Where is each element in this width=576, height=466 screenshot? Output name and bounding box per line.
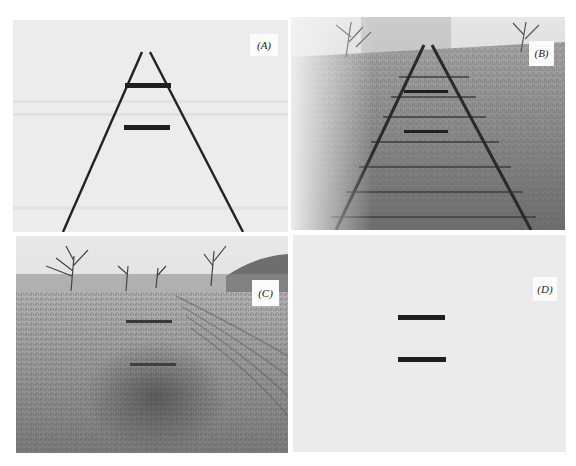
lower-bar [398,357,446,362]
panel-label-d: (D) [533,277,557,301]
panel-a-line-drawing: (A) [13,20,288,232]
panel-label-b: (B) [529,41,554,66]
upper-bar [125,83,171,88]
panel-d-plain-control: (D) [293,235,566,452]
panel-b-railroad-photo: (B) [291,17,565,230]
panel-c-field-photo: (C) [16,236,288,453]
plain-bars-drawing [293,235,566,452]
panel-label-c: (C) [252,280,279,306]
railroad-tracks-photo [291,17,565,230]
converging-lines-drawing [13,20,288,232]
upper-bar [398,315,445,320]
panel-label-a: (A) [250,34,278,56]
lower-bar [130,363,176,366]
grassy-field-photo [16,236,288,453]
lower-bar [124,125,170,130]
upper-bar [126,320,172,323]
